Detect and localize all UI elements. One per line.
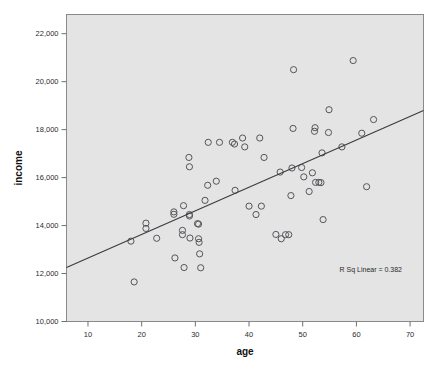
y-tick-label: 12,000 [36, 269, 59, 278]
x-tick-label: 50 [299, 330, 307, 339]
x-tick-label: 10 [84, 330, 92, 339]
y-tick-label: 14,000 [36, 221, 59, 230]
plot-panel [67, 15, 424, 322]
scatter-plot-svg: 10,00012,00014,00016,00018,00020,00022,0… [0, 0, 446, 368]
x-tick-label: 30 [191, 330, 199, 339]
x-tick-label: 60 [352, 330, 360, 339]
r-squared-annotation: R Sq Linear = 0.382 [340, 266, 403, 274]
y-tick-label: 16,000 [36, 173, 59, 182]
scatter-plot-figure: 10,00012,00014,00016,00018,00020,00022,0… [0, 0, 446, 368]
x-tick-label: 20 [137, 330, 145, 339]
y-tick-label: 20,000 [36, 77, 59, 86]
x-tick-label: 70 [406, 330, 414, 339]
x-axis-title: age [236, 346, 254, 357]
x-tick-label: 40 [245, 330, 253, 339]
y-axis-title: income [13, 150, 24, 185]
y-tick-label: 18,000 [36, 125, 59, 134]
y-tick-label: 22,000 [36, 29, 59, 38]
y-tick-label: 10,000 [36, 317, 59, 326]
